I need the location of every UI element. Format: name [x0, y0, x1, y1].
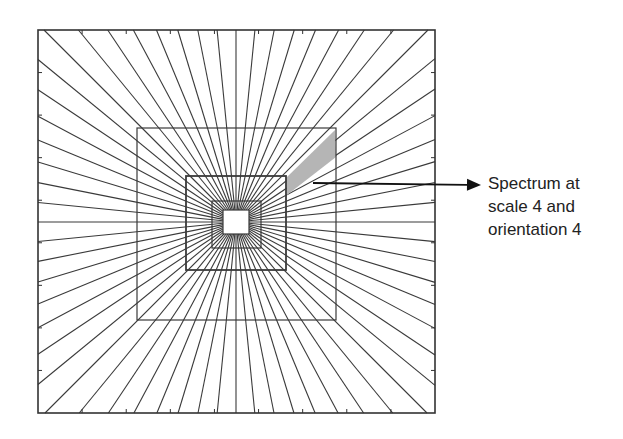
annotation-line-3: orientation 4 — [488, 218, 582, 241]
annotation-line-1: Spectrum at — [488, 172, 582, 195]
annotation-line-2: scale 4 and — [488, 195, 582, 218]
scale-square-4 — [223, 210, 249, 234]
annotation-label: Spectrum at scale 4 and orientation 4 — [488, 172, 582, 241]
